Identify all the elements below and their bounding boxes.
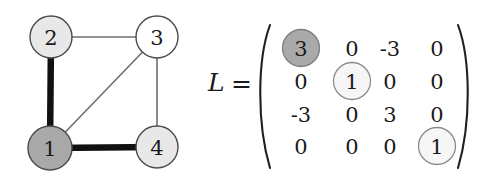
graph-node-3[interactable]: 3 [136, 16, 178, 58]
graph-edges [50, 37, 157, 148]
matrix-cell-r3c3: 3 [383, 103, 396, 127]
graph-svg: 2 3 1 4 [0, 0, 200, 183]
matrix-cell-r2c3: 0 [383, 70, 396, 94]
matrix-cell-r1c2: 0 [345, 37, 358, 61]
node-3-label: 3 [150, 26, 163, 50]
node-4-label: 4 [150, 136, 163, 160]
node-2-label: 2 [44, 26, 57, 50]
matrix-cell-r3c4: 0 [430, 103, 443, 127]
matrix-cell-r4c4: 1 [430, 135, 443, 159]
node-1-label: 1 [43, 137, 56, 161]
matrix-row-3: -3 0 3 0 [291, 103, 444, 127]
graph-node-4[interactable]: 4 [136, 126, 178, 168]
left-paren [260, 25, 270, 168]
matrix-cell-r2c1: 0 [294, 70, 307, 94]
equation-panel: L = 3 0 -3 0 0 1 0 [200, 0, 487, 183]
matrix-cell-r4c1: 0 [294, 135, 307, 159]
matrix-cell-r4c2: 0 [345, 135, 358, 159]
matrix-cell-r3c2: 0 [345, 103, 358, 127]
matrix-cell-r1c1: 3 [294, 37, 307, 61]
figure-root: 2 3 1 4 L = [0, 0, 487, 183]
matrix-cell-r2c4: 0 [430, 70, 443, 94]
edge-1-3 [50, 37, 157, 148]
matrix-cell-r1c4: 0 [430, 37, 443, 61]
matrix-cell-r3c1: -3 [291, 103, 311, 127]
graph-node-2[interactable]: 2 [30, 16, 72, 58]
matrix-svg: 3 0 -3 0 0 1 0 0 -3 0 3 0 0 0 [200, 0, 487, 183]
matrix-cell-r1c3: -3 [380, 37, 400, 61]
right-paren [458, 25, 468, 168]
matrix-cell-r2c2: 1 [345, 70, 358, 94]
graph-node-1[interactable]: 1 [28, 126, 72, 170]
matrix-cell-r4c3: 0 [383, 135, 396, 159]
graph-panel: 2 3 1 4 [0, 0, 200, 183]
